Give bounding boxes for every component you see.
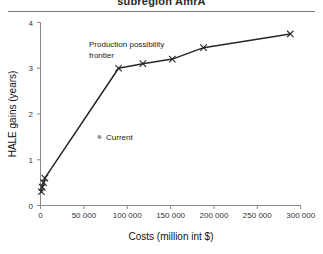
- x-axis-title: Costs (million int $): [128, 231, 213, 242]
- x-tick-label-3: 150 000: [156, 211, 185, 220]
- y-axis-tick-labels: 0 1 2 3 4: [29, 19, 34, 211]
- x-tick-label-4: 200 000: [200, 211, 229, 220]
- x-tick-label-6: 300 000: [286, 211, 315, 220]
- y-axis-ticks: [37, 23, 41, 206]
- x-tick-label-1: 50 000: [72, 211, 97, 220]
- x-tick-label-0: 0: [38, 211, 43, 220]
- ppf-annotation-line1: Production possibility: [89, 40, 164, 49]
- y-tick-label-4: 4: [29, 19, 34, 28]
- current-legend-label: Current: [106, 133, 133, 142]
- x-tick-label-5: 250 000: [243, 211, 272, 220]
- x-axis-tick-labels: 0 50 000 100 000 150 000 200 000 250 000…: [38, 211, 315, 220]
- chart-plot-area: 0 1 2 3 4 0 50 000 100 000 150 000 200 0…: [0, 0, 323, 254]
- x-axis-ticks: [41, 206, 301, 210]
- ppf-data-markers: [38, 31, 293, 195]
- y-axis-title: HALE gains (years): [7, 71, 18, 158]
- current-legend: Current: [97, 133, 133, 142]
- y-tick-label-1: 1: [29, 156, 34, 165]
- y-tick-label-2: 2: [29, 110, 34, 119]
- current-legend-marker: [97, 135, 101, 139]
- ppf-annotation-line2: frontier: [89, 51, 114, 60]
- x-tick-label-2: 100 000: [113, 211, 142, 220]
- y-tick-label-3: 3: [29, 64, 34, 73]
- ppf-curve: [41, 34, 290, 192]
- y-tick-label-0: 0: [29, 202, 34, 211]
- figure-container: subregion AmrA 0 1 2 3 4: [0, 0, 323, 254]
- ppf-annotation: Production possibility frontier: [89, 40, 164, 60]
